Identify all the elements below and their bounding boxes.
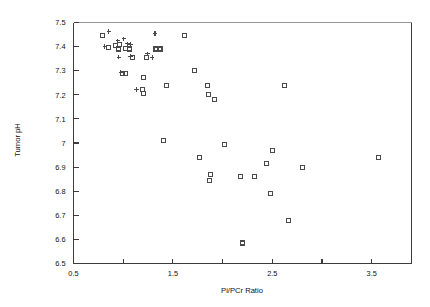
data-point-square: [377, 155, 381, 159]
y-axis-title: Tumor pH: [13, 123, 22, 156]
y-axis-tick-label: 7.5: [55, 18, 65, 27]
chart-canvas: 6.56.66.76.86.977.17.27.37.47.50.51.52.5…: [0, 0, 430, 307]
x-axis-tick-label: 1.5: [168, 269, 178, 278]
data-point-square: [207, 93, 211, 97]
data-point-square: [100, 34, 104, 38]
x-axis-title: Pi/PCr Ratio: [221, 286, 263, 295]
data-point-square: [268, 192, 272, 196]
data-point-square: [165, 84, 169, 88]
data-point-square: [282, 83, 286, 87]
y-axis-tick-label: 6.9: [55, 163, 65, 172]
data-point-square: [239, 174, 243, 178]
data-point-square: [264, 161, 268, 165]
series-square-markers: [100, 34, 380, 245]
data-point-square: [300, 166, 304, 170]
y-axis-tick-label: 6.8: [55, 187, 65, 196]
data-point-square: [144, 55, 148, 59]
data-point-square: [223, 142, 227, 146]
data-point-square: [213, 97, 217, 101]
data-point-square: [141, 76, 145, 80]
y-axis-tick-label: 7.3: [55, 66, 65, 75]
x-axis-tick-label: 0.5: [68, 269, 78, 278]
data-point-square: [252, 174, 256, 178]
y-axis-tick-label: 7.4: [55, 42, 65, 51]
data-point-square: [127, 47, 131, 51]
data-point-square: [154, 47, 158, 51]
y-axis-tick-label: 6.7: [55, 211, 65, 220]
x-axis-tick-label: 3.5: [367, 269, 377, 278]
data-point-square: [141, 92, 145, 96]
series-plus-markers: [103, 29, 158, 91]
data-point-square: [123, 47, 127, 51]
y-axis-tick-label: 7.2: [55, 91, 65, 100]
data-point-square: [286, 218, 290, 222]
x-axis-tick-label: 2.5: [267, 269, 277, 278]
scatter-plot-figure: 6.56.66.76.86.977.17.27.37.47.50.51.52.5…: [0, 0, 430, 307]
data-point-square: [209, 173, 213, 177]
y-axis-tick-label: 6.5: [55, 259, 65, 268]
data-point-square: [270, 149, 274, 153]
data-point-square: [183, 34, 187, 38]
data-point-square: [206, 83, 210, 87]
data-point-square: [198, 155, 202, 159]
y-axis-tick-label: 7.1: [55, 115, 65, 124]
data-point-square: [162, 138, 166, 142]
data-point-square: [193, 69, 197, 73]
y-axis-tick-label: 6.6: [55, 235, 65, 244]
data-point-square: [140, 88, 144, 92]
data-point-square: [208, 178, 212, 182]
tick-labels-group: 6.56.66.76.86.977.17.27.37.47.50.51.52.5…: [55, 18, 377, 277]
y-axis-tick-label: 7: [61, 139, 65, 148]
data-point-square: [241, 241, 245, 245]
data-point-square: [158, 47, 162, 51]
axes-group: [74, 23, 412, 264]
data-markers-group: [100, 29, 380, 245]
